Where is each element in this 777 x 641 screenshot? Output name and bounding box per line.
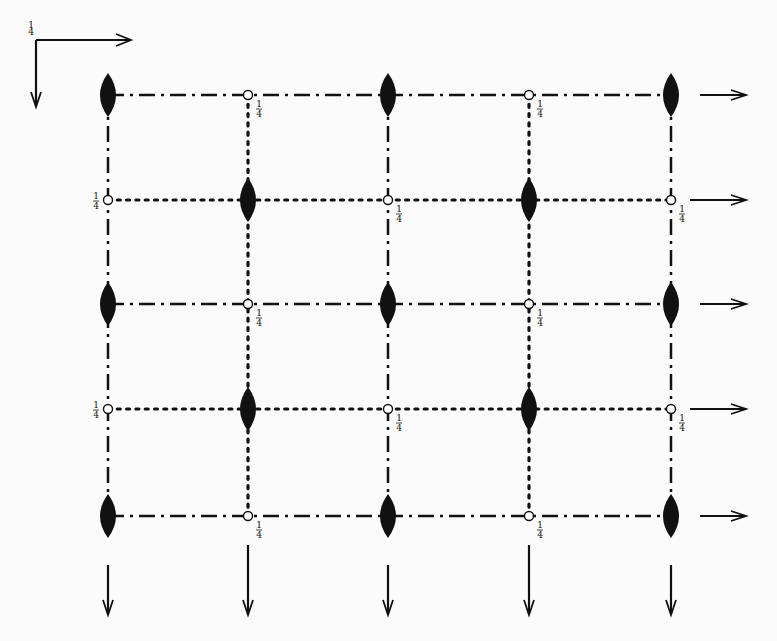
fraction-label: 14 xyxy=(537,308,543,328)
fraction-label: 14 xyxy=(396,413,402,433)
svg-text:1: 1 xyxy=(256,99,262,109)
svg-text:1: 1 xyxy=(537,308,543,318)
svg-text:4: 4 xyxy=(396,423,402,433)
twofold-axis-lens-icon xyxy=(100,282,116,326)
svg-text:4: 4 xyxy=(537,530,543,540)
twofold-axis-lens-icon xyxy=(663,73,679,117)
inversion-centre-circle-icon xyxy=(525,91,534,100)
twofold-axis-lens-icon xyxy=(100,494,116,538)
svg-text:4: 4 xyxy=(256,318,262,328)
svg-text:4: 4 xyxy=(679,423,685,433)
svg-text:4: 4 xyxy=(537,109,543,119)
fraction-label: 14 xyxy=(93,400,99,420)
fraction-label: 14 xyxy=(256,99,262,119)
svg-text:1: 1 xyxy=(93,400,99,410)
svg-text:1: 1 xyxy=(256,308,262,318)
svg-text:4: 4 xyxy=(93,410,99,420)
svg-text:1: 1 xyxy=(93,191,99,201)
fraction-label: 14 xyxy=(537,99,543,119)
twofold-axis-lens-icon xyxy=(100,73,116,117)
fraction-label: 14 xyxy=(537,520,543,540)
twofold-axis-lens-icon xyxy=(663,282,679,326)
svg-text:4: 4 xyxy=(256,109,262,119)
twofold-axis-lens-icon xyxy=(380,494,396,538)
inversion-centre-circle-icon xyxy=(667,405,676,414)
origin-label: 14 xyxy=(28,20,34,37)
fraction-label: 14 xyxy=(256,520,262,540)
symmetry-diagram: 14141414141414141414141414 xyxy=(0,0,777,641)
svg-text:1: 1 xyxy=(537,520,543,530)
inversion-centre-circle-icon xyxy=(104,196,113,205)
fraction-label: 14 xyxy=(679,204,685,224)
twofold-axis-lens-icon xyxy=(380,282,396,326)
svg-text:1: 1 xyxy=(679,204,685,214)
svg-text:1: 1 xyxy=(256,520,262,530)
svg-text:1: 1 xyxy=(679,413,685,423)
svg-text:4: 4 xyxy=(679,214,685,224)
svg-text:4: 4 xyxy=(256,530,262,540)
twofold-axis-lens-icon xyxy=(663,494,679,538)
inversion-centre-circle-icon xyxy=(104,405,113,414)
svg-text:4: 4 xyxy=(28,27,34,37)
twofold-axis-lens-icon xyxy=(380,73,396,117)
svg-text:4: 4 xyxy=(396,214,402,224)
svg-text:1: 1 xyxy=(396,204,402,214)
svg-text:4: 4 xyxy=(537,318,543,328)
fraction-label: 14 xyxy=(679,413,685,433)
twofold-axis-lens-icon xyxy=(521,387,537,431)
svg-text:1: 1 xyxy=(537,99,543,109)
inversion-centre-circle-icon xyxy=(525,512,534,521)
inversion-centre-circle-icon xyxy=(244,512,253,521)
svg-text:1: 1 xyxy=(396,413,402,423)
inversion-centre-circle-icon xyxy=(384,405,393,414)
inversion-centre-circle-icon xyxy=(244,300,253,309)
twofold-axis-lens-icon xyxy=(240,178,256,222)
inversion-centre-circle-icon xyxy=(384,196,393,205)
inversion-centre-circle-icon xyxy=(525,300,534,309)
twofold-axis-lens-icon xyxy=(521,178,537,222)
inversion-centre-circle-icon xyxy=(244,91,253,100)
inversion-centre-circle-icon xyxy=(667,196,676,205)
fraction-label: 14 xyxy=(396,204,402,224)
fraction-label: 14 xyxy=(93,191,99,211)
fraction-label: 14 xyxy=(256,308,262,328)
twofold-axis-lens-icon xyxy=(240,387,256,431)
svg-text:4: 4 xyxy=(93,201,99,211)
